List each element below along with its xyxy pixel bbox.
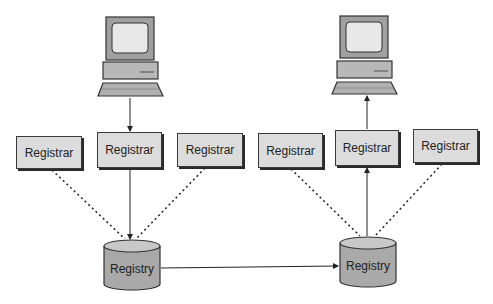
registry-label-2: Registry: [340, 259, 396, 273]
dotted-link: [375, 164, 442, 236]
registrar-label: Registrar: [186, 143, 235, 157]
registrar-box-2: Registrar: [97, 132, 162, 168]
dotted-link: [52, 170, 125, 239]
registrar-box-6: Registrar: [413, 129, 478, 163]
registrar-label: Registrar: [266, 144, 315, 158]
registrar-label: Registrar: [105, 143, 154, 157]
computer-right-icon: [332, 16, 397, 94]
registrar-box-3: Registrar: [177, 133, 243, 167]
registrar-label: Registrar: [343, 141, 392, 155]
registrar-box-4: Registrar: [258, 133, 323, 168]
registrar-label: Registrar: [25, 146, 74, 160]
registrar-label: Registrar: [421, 139, 470, 153]
registrar-box-5: Registrar: [335, 130, 399, 166]
dotted-link: [291, 169, 360, 236]
registrar-box-1: Registrar: [16, 136, 82, 169]
arrow-registry-to-registry: [161, 266, 338, 268]
computer-left-icon: [98, 17, 163, 96]
registry-label-1: Registry: [104, 262, 160, 276]
dotted-link: [136, 168, 205, 239]
